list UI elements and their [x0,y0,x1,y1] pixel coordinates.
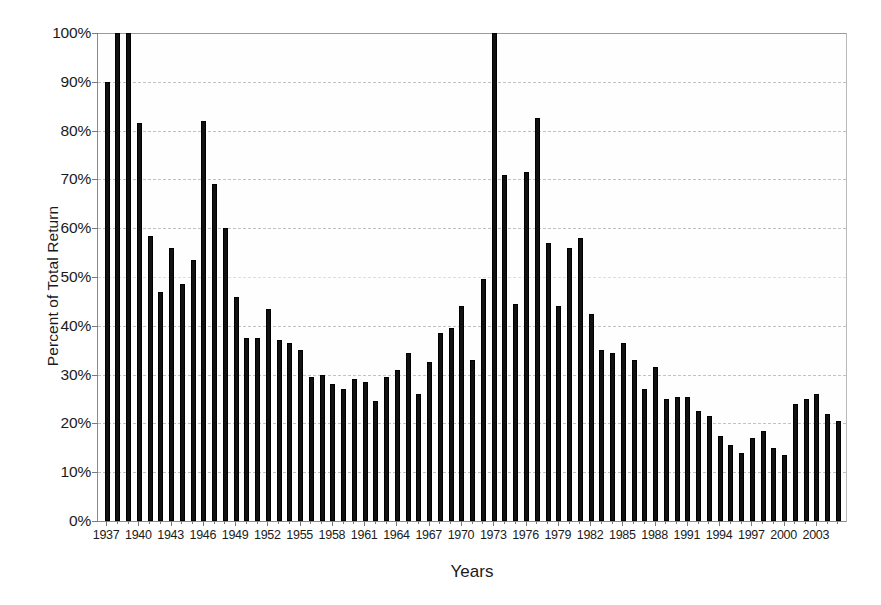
bar [599,350,604,521]
bar [718,436,723,521]
bar [191,260,196,521]
x-tick-mark [138,521,139,526]
x-tick-label: 1937 [93,528,120,542]
bar [395,370,400,521]
bar [406,353,411,521]
bar [707,416,712,521]
bar [105,82,110,521]
y-tick-label: 30% [61,366,91,384]
bar [234,297,239,521]
x-tick-mark-minor [773,521,774,524]
bar [459,306,464,521]
x-tick-mark-minor [472,521,473,524]
x-tick-mark [526,521,527,526]
bar [115,33,120,521]
x-tick-mark-minor [128,521,129,524]
bar [589,314,594,521]
x-tick-mark-minor [310,521,311,524]
bar [621,343,626,521]
bar [352,379,357,521]
x-tick-mark-minor [246,521,247,524]
bar [438,333,443,521]
x-tick-label: 1949 [222,528,249,542]
y-tick-label: 10% [61,463,91,481]
x-tick-label: 1991 [674,528,701,542]
x-tick-mark [203,521,204,526]
bar [126,33,131,521]
bar [287,343,292,521]
x-tick-mark-minor [278,521,279,524]
x-tick-mark [364,521,365,526]
x-tick-mark [396,521,397,526]
x-tick-mark-minor [482,521,483,524]
x-tick-label: 1943 [157,528,184,542]
y-axis-title: Percent of Total Return [44,136,62,436]
x-tick-mark-minor [353,521,354,524]
bar [244,338,249,521]
x-tick-label: 1973 [480,528,507,542]
x-tick-label: 1967 [415,528,442,542]
x-tick-mark [784,521,785,526]
bar-series [99,33,846,521]
bar [804,399,809,521]
bar [513,304,518,521]
bar [653,367,658,521]
x-tick-mark [332,521,333,526]
x-tick-mark-minor [708,521,709,524]
bar [814,394,819,521]
x-tick-mark [461,521,462,526]
bar [148,236,153,521]
bar [664,399,669,521]
x-tick-mark-minor [633,521,634,524]
x-tick-mark [590,521,591,526]
y-tick-mark [92,375,98,376]
x-tick-label: 1961 [351,528,378,542]
x-tick-mark [558,521,559,526]
x-tick-mark-minor [289,521,290,524]
chart-figure: 1937194019431946194919521955195819611964… [0,0,881,605]
x-tick-mark [622,521,623,526]
x-tick-mark [267,521,268,526]
bar [255,338,260,521]
bar [384,377,389,521]
x-tick-mark-minor [149,521,150,524]
x-tick-label: 1982 [577,528,604,542]
x-tick-label: 1976 [512,528,539,542]
y-tick-label: 90% [61,73,91,91]
bar [567,248,572,521]
y-tick-mark [92,131,98,132]
x-tick-mark-minor [805,521,806,524]
bar [373,401,378,521]
x-tick-mark-minor [676,521,677,524]
x-tick-mark-minor [569,521,570,524]
x-tick-label: 1994 [706,528,733,542]
x-tick-label: 1958 [319,528,346,542]
x-tick-mark [816,521,817,526]
x-tick-mark-minor [160,521,161,524]
x-tick-mark [300,521,301,526]
x-tick-mark [751,521,752,526]
x-tick-mark-minor [214,521,215,524]
bar [137,123,142,521]
bar [546,243,551,521]
bar [212,184,217,521]
bar [492,33,497,521]
bar [632,360,637,521]
y-tick-label: 50% [61,268,91,286]
bar [201,121,206,521]
bar [169,248,174,521]
bar [470,360,475,521]
x-tick-mark-minor [837,521,838,524]
bar [266,309,271,521]
x-tick-mark-minor [698,521,699,524]
bar [481,279,486,521]
x-tick-label: 1988 [641,528,668,542]
y-tick-mark [92,33,98,34]
x-tick-label: 1940 [125,528,152,542]
x-tick-label: 1952 [254,528,281,542]
y-tick-mark [92,82,98,83]
y-tick-mark [92,423,98,424]
y-tick-label: 100% [52,24,91,42]
x-tick-mark-minor [730,521,731,524]
bar [793,404,798,521]
